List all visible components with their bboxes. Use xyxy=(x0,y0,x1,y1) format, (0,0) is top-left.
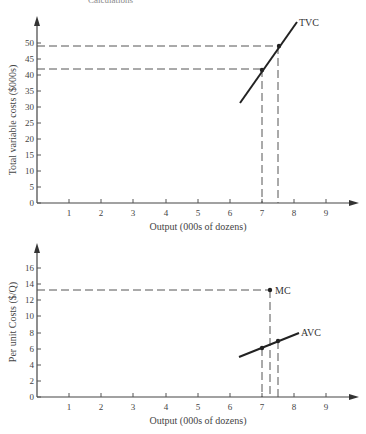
svg-text:6: 6 xyxy=(30,344,35,354)
tvc-label: TVC xyxy=(299,17,319,28)
tvc-point-7.5 xyxy=(277,44,281,48)
svg-text:3: 3 xyxy=(131,208,136,218)
svg-text:16: 16 xyxy=(25,263,35,273)
svg-text:7: 7 xyxy=(260,402,265,412)
svg-text:0: 0 xyxy=(30,392,35,402)
svg-text:10: 10 xyxy=(25,166,35,176)
svg-text:7: 7 xyxy=(260,208,265,218)
svg-text:2: 2 xyxy=(30,376,35,386)
svg-text:40: 40 xyxy=(25,70,35,80)
svg-text:0: 0 xyxy=(30,198,35,208)
x-axis-title: Output (000s of dozens) xyxy=(150,221,247,233)
svg-text:15: 15 xyxy=(25,150,35,160)
x-tick-labels: 1 2 3 4 5 6 7 8 9 xyxy=(67,402,329,412)
tvc-point-7 xyxy=(260,68,264,72)
y-tick-labels: 0 2 4 6 8 10 12 14 16 xyxy=(25,263,35,402)
svg-text:6: 6 xyxy=(228,402,233,412)
svg-text:4: 4 xyxy=(164,402,169,412)
svg-text:20: 20 xyxy=(25,134,35,144)
svg-text:35: 35 xyxy=(25,86,35,96)
svg-text:5: 5 xyxy=(196,402,201,412)
svg-text:5: 5 xyxy=(196,208,201,218)
svg-text:4: 4 xyxy=(30,360,35,370)
svg-text:8: 8 xyxy=(292,208,297,218)
svg-text:4: 4 xyxy=(164,208,169,218)
svg-text:9: 9 xyxy=(324,402,329,412)
svg-text:3: 3 xyxy=(131,402,136,412)
svg-text:8: 8 xyxy=(292,402,297,412)
y-axis-title: Per unit Costs ($/Q) xyxy=(7,282,19,362)
svg-text:2: 2 xyxy=(99,402,104,412)
header-text: Calculations xyxy=(88,0,133,5)
avc-label: AVC xyxy=(301,327,321,338)
tvc-curve xyxy=(240,22,297,103)
figure: Calculations 0 5 10 15 20 25 xyxy=(0,0,366,434)
x-tick-labels: 1 2 3 4 5 6 7 8 9 xyxy=(67,208,329,218)
svg-text:2: 2 xyxy=(99,208,104,218)
svg-text:50: 50 xyxy=(25,38,35,48)
svg-text:5: 5 xyxy=(30,182,35,192)
avc-point-7.5 xyxy=(276,339,280,343)
reference-lines xyxy=(37,290,278,397)
avc-curve xyxy=(239,333,299,357)
y-axis-arrow-icon xyxy=(34,16,40,26)
tvc-chart: 0 5 10 15 20 25 30 35 40 45 50 1 2 xyxy=(7,16,359,233)
avc-point-7 xyxy=(260,346,264,350)
svg-text:14: 14 xyxy=(25,279,35,289)
y-axis-title: Total variable costs ($000s) xyxy=(7,65,19,176)
per-unit-cost-chart: 0 2 4 6 8 10 12 14 16 1 2 3 4 5 xyxy=(7,243,359,427)
svg-text:1: 1 xyxy=(67,208,72,218)
mc-point xyxy=(268,288,272,292)
svg-text:10: 10 xyxy=(25,311,35,321)
x-axis-title: Output (000s of dozens) xyxy=(150,415,247,427)
y-axis-arrow-icon xyxy=(34,243,40,253)
svg-text:45: 45 xyxy=(25,54,35,64)
svg-text:25: 25 xyxy=(25,118,35,128)
svg-text:8: 8 xyxy=(30,328,35,338)
x-axis-arrow-icon xyxy=(349,200,359,206)
svg-text:30: 30 xyxy=(25,102,35,112)
mc-label: MC xyxy=(275,285,291,296)
svg-text:9: 9 xyxy=(324,208,329,218)
svg-text:6: 6 xyxy=(228,208,233,218)
x-axis-arrow-icon xyxy=(349,394,359,400)
y-tick-labels: 0 5 10 15 20 25 30 35 40 45 50 xyxy=(25,38,35,208)
svg-text:12: 12 xyxy=(25,295,34,305)
reference-lines xyxy=(37,46,278,203)
svg-text:1: 1 xyxy=(67,402,72,412)
